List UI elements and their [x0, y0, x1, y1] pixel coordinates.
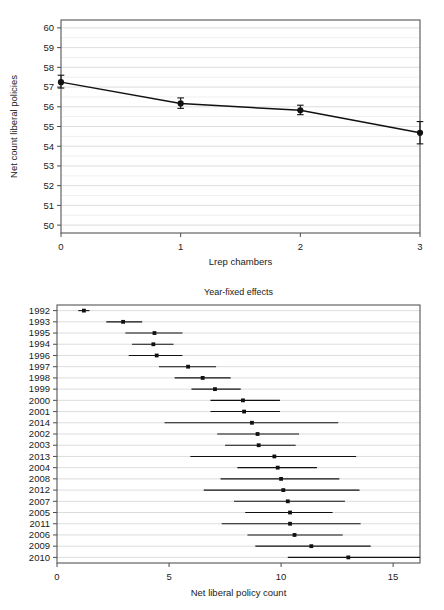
y-axis: 1992199319951994199619971998199920002001…	[29, 305, 57, 563]
data-marker	[286, 499, 290, 503]
y-tick-label-year: 2004	[29, 462, 50, 473]
data-point-group	[234, 499, 345, 503]
x-tick-label: 0	[58, 241, 63, 252]
y-tick-label: 53	[43, 160, 54, 171]
data-marker	[186, 365, 190, 369]
y-tick-label-year: 2002	[29, 428, 50, 439]
y-axis: 5051525354555657585960Net count liberal …	[8, 22, 61, 230]
y-tick-label-year: 2003	[29, 439, 50, 450]
y-tick-label-year: 1997	[29, 361, 50, 372]
y-tick-label-year: 1998	[29, 372, 50, 383]
data-point-group	[210, 398, 279, 402]
y-tick-label: 59	[43, 42, 54, 53]
y-tick-label-year: 2013	[29, 451, 50, 462]
y-axis-title: Net count liberal policies	[8, 75, 19, 178]
data-point-group	[222, 522, 361, 526]
gridlines	[61, 28, 420, 225]
x-axis-title: Net liberal policy count	[191, 587, 287, 598]
y-tick-label: 51	[43, 200, 54, 211]
y-tick-label-year: 2011	[30, 518, 50, 529]
data-marker	[256, 432, 260, 436]
data-point-group	[129, 354, 183, 358]
data-marker	[272, 455, 276, 459]
chart-bottom-svg: Year-fixed effects1992199319951994199619…	[0, 280, 444, 610]
y-tick-label: 50	[43, 220, 54, 231]
data-marker	[293, 533, 297, 537]
y-tick-label: 54	[43, 141, 54, 152]
x-tick-label: 2	[298, 241, 303, 252]
y-tick-label-year: 1992	[29, 305, 50, 316]
y-tick-label-year: 2005	[29, 507, 50, 518]
data-marker	[155, 354, 159, 358]
data-point-group	[191, 387, 240, 391]
y-tick-label-year: 2007	[29, 496, 50, 507]
data-marker	[281, 488, 285, 492]
x-axis: 051015Net liberal policy count	[54, 563, 398, 598]
y-tick-label-year: 2014	[29, 417, 50, 428]
data-point-group	[78, 309, 89, 313]
chart-bottom-year-fixed-effects: Year-fixed effects1992199319951994199619…	[0, 280, 444, 610]
data-marker	[241, 398, 245, 402]
data-point-group	[190, 455, 356, 459]
chart-top-lrep-chambers: 5051525354555657585960Net count liberal …	[0, 0, 444, 280]
y-tick-label-year: 2008	[29, 473, 50, 484]
data-point-group	[159, 365, 216, 369]
data-marker	[82, 309, 86, 313]
y-tick-label-year: 2000	[29, 395, 50, 406]
chart-top-svg: 5051525354555657585960Net count liberal …	[0, 0, 444, 280]
y-tick-label-year: 2012	[29, 484, 50, 495]
data-point-group	[210, 410, 279, 414]
data-point-group	[288, 555, 420, 559]
y-tick-label-year: 1994	[29, 338, 50, 349]
series-group	[58, 75, 424, 144]
data-point-group	[225, 443, 296, 447]
data-point-group	[106, 320, 142, 324]
data-marker	[250, 421, 254, 425]
data-point-group	[175, 376, 231, 380]
data-point-group	[247, 533, 342, 537]
data-point-group	[125, 331, 182, 335]
x-tick-label: 1	[178, 241, 183, 252]
data-marker	[257, 443, 261, 447]
data-point-group	[255, 544, 370, 548]
chart-title: Year-fixed effects	[204, 287, 274, 297]
data-marker	[213, 387, 217, 391]
y-tick-label: 55	[43, 121, 54, 132]
y-tick-label-year: 2010	[29, 552, 50, 563]
data-point-group	[217, 432, 299, 436]
data-marker	[58, 79, 64, 85]
data-point-group	[417, 122, 424, 144]
x-axis-title: Lrep chambers	[209, 256, 273, 267]
data-marker	[201, 376, 205, 380]
data-marker	[417, 130, 423, 136]
data-marker	[153, 331, 157, 335]
data-point-group	[237, 466, 317, 470]
data-marker	[276, 466, 280, 470]
data-marker	[288, 522, 292, 526]
y-tick-label-year: 2006	[29, 529, 50, 540]
data-marker	[178, 100, 184, 106]
y-tick-label-year: 2001	[29, 406, 50, 417]
x-tick-label: 10	[276, 571, 287, 582]
data-point-group	[221, 477, 340, 481]
data-marker	[297, 107, 303, 113]
x-axis: 0123Lrep chambers	[58, 233, 422, 267]
data-point-group	[132, 342, 173, 346]
y-tick-label: 56	[43, 101, 54, 112]
x-tick-label: 5	[166, 571, 171, 582]
y-tick-label: 58	[43, 62, 54, 73]
y-tick-label-year: 1996	[29, 350, 50, 361]
data-marker	[288, 511, 292, 515]
data-line	[61, 82, 420, 133]
figure-root: 5051525354555657585960Net count liberal …	[0, 0, 444, 610]
x-tick-label: 3	[417, 241, 422, 252]
data-marker	[309, 544, 313, 548]
y-tick-label: 60	[43, 22, 54, 33]
y-tick-label: 52	[43, 180, 54, 191]
y-tick-label-year: 1995	[29, 327, 50, 338]
data-point-group	[245, 511, 332, 515]
data-marker	[121, 320, 125, 324]
data-point-group	[204, 488, 360, 492]
data-point-group	[165, 421, 339, 425]
y-tick-label-year: 2009	[29, 540, 50, 551]
